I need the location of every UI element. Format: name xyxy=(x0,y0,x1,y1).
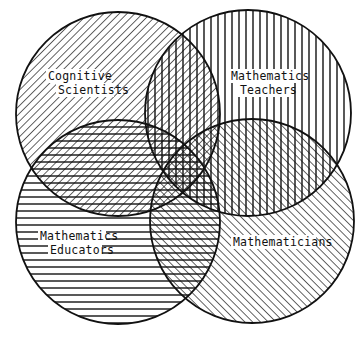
venn-diagram: Cognitive Scientists Mathematics Teacher… xyxy=(0,0,364,338)
label-mathematics-teachers-line2: Teachers xyxy=(240,83,297,97)
label-mathematicians: Mathematicians xyxy=(233,235,333,249)
label-mathematics-educators-line1: Mathematics xyxy=(40,229,118,243)
label-mathematics-teachers-line1: Mathematics xyxy=(231,69,309,83)
label-cognitive-scientists-line1: Cognitive xyxy=(48,69,112,83)
label-cognitive-scientists-line2: Scientists xyxy=(58,83,129,97)
label-mathematics-educators-line2: Educators xyxy=(50,243,114,257)
mathematicians-fill xyxy=(150,119,354,323)
hatch-layer xyxy=(16,10,354,324)
